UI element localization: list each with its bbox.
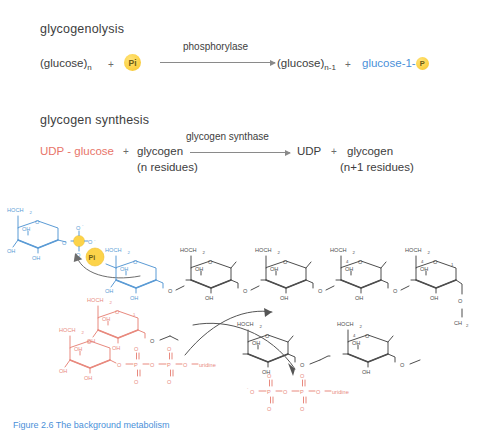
oh-prod-a-3: OH [362, 369, 370, 375]
hoch2-sub-ring2: 2 [278, 250, 281, 255]
carbon-4-prod-a: 4 [353, 333, 356, 338]
oh-udpg-2: OH [74, 346, 82, 352]
oh-label-blue-2: OH [22, 226, 30, 232]
glycogenolysis-plus-1: + [108, 59, 114, 70]
hoch2-sub-udpg: 2 [82, 330, 85, 335]
glucose-1-phosphate-structure: HOCH 2 O OH OH OH O O O O - - [7, 207, 96, 261]
oh-ring2-3: OH [280, 295, 288, 301]
glycosidic-o-3: O [318, 288, 323, 294]
glycosidic-o-4: O [393, 288, 398, 294]
hoch2-label-prod-a: HOCH [337, 321, 353, 327]
udp-released-structure: O - P O O O P O O O uridine [247, 373, 349, 412]
oh-chain-blue-1: OH [105, 288, 113, 294]
hoch2-label-prod-b: HOCH [237, 321, 253, 327]
branch-ch2-label: CH [454, 320, 462, 326]
hoch2-label-udpg: HOCH [59, 327, 75, 333]
glycogen-ring-4-branch: O HOCH 2 4 O OH OH 1 O CH 2 [393, 247, 469, 328]
oh-ring3-3: OH [355, 295, 363, 301]
p-label-udpg-2: P [167, 362, 171, 368]
glycogen-synthesis-title: glycogen synthesis [40, 113, 149, 127]
ring-oxygen-prod-b: O [265, 333, 270, 339]
udp-p2-top-o: O [300, 373, 305, 379]
phosphorylase-enzyme-label: phosphorylase [183, 41, 248, 52]
glycogenolysis-reaction-arrow [160, 62, 275, 63]
product-chain-ring-b: HOCH 2 O OH OH O [237, 321, 330, 375]
glycosidic-o-1: O [168, 288, 173, 294]
oh-prod-b-2: OH [252, 340, 260, 346]
ring-oxygen-ring4: O [433, 259, 438, 265]
udp-p2-bottom-o: O [300, 406, 305, 412]
glycogenolysis-right-product: (glucose)n-1 [277, 57, 336, 72]
hoch2-label-chain-blue: HOCH [105, 247, 121, 253]
o-bridge-udpg: O [150, 362, 155, 368]
glycogen-chain-blue-ring: HOCH 2 O OH OH OH [105, 247, 163, 301]
udp-p-label-1: P [267, 389, 271, 395]
glycogen-ring-2: O HOCH 2 O OH OH [243, 247, 313, 301]
oh-udpg-3: OH [84, 375, 92, 381]
oh-ring1-3: OH [205, 295, 213, 301]
udp-glucose-structure: HOCH 2 O OH OH OH O P O O O P O O O urid… [59, 327, 216, 385]
carbon-4-ring4: 4 [421, 259, 424, 264]
hoch2-sub-chain-blue: 2 [128, 250, 131, 255]
glucose-1-phosphate-label: glucose-1-P [362, 57, 429, 70]
udp-p1-top-o: O [267, 373, 272, 379]
arrowhead-to-udp [288, 363, 295, 376]
udp-p-label-2: P [300, 389, 304, 395]
hoch2-sub-prod-a: 2 [360, 324, 363, 329]
oh-chain-blue-3: OH [130, 295, 138, 301]
oh-ring4-3: OH [430, 295, 438, 301]
glucose-n-1-label: (glucose) [277, 57, 324, 69]
pi-label: Pi [124, 54, 141, 71]
hoch2-sub-ring1: 2 [203, 250, 206, 255]
glycogenolysis-left-substrate: (glucose)n [40, 57, 92, 72]
glycogenolysis-title: glycogenolysis [40, 22, 124, 36]
oh-ring4-2: OH [420, 266, 428, 272]
hoch2-label-ring4: HOCH [405, 247, 421, 253]
glucose-1-p-text: glucose-1- [362, 57, 416, 69]
hoch2-label-blue: HOCH [7, 207, 23, 213]
oh-ring1-2: OH [195, 266, 203, 272]
udp-o-uridine-link: O [316, 389, 321, 395]
o-link-udpg: O [117, 362, 122, 368]
ring-oxygen-new-red: O [115, 309, 120, 315]
glycogen-product-label: glycogen [347, 145, 393, 157]
p2-double-o-udpg: O [167, 346, 172, 352]
pi-release-arrow [71, 252, 140, 278]
udp-terminal-o-left: O [250, 389, 255, 395]
oh-new-red-2: OH [102, 316, 110, 322]
pi-badge-reaction1: Pi [124, 53, 141, 71]
synthesis-reaction-arrow [190, 152, 290, 153]
branch-oxygen: O [458, 298, 463, 304]
glucose-n-1-subscript: n-1 [324, 63, 336, 72]
hoch2-label-new-red: HOCH [87, 297, 103, 303]
glycosidic-o-prod-a: O [400, 362, 405, 368]
p2-bottom-o-udpg: O [167, 379, 172, 385]
hoch2-label-ring3: HOCH [330, 247, 346, 253]
carbon-4-ring3: 4 [346, 259, 349, 264]
ring-oxygen-udpg: O [87, 339, 92, 345]
branch-ch2-sub: 2 [466, 323, 469, 328]
phosphate-o-right: O [88, 239, 93, 245]
phosphate-charge-right: - [94, 237, 96, 242]
glycogen-substrate-label: glycogen [137, 145, 183, 157]
hoch2-label-ring2: HOCH [255, 247, 271, 253]
hoch2-sub-ring3: 2 [353, 250, 356, 255]
phosphate-o-top: O [76, 225, 81, 231]
ring-oxygen-chain-blue: O [133, 259, 138, 265]
phosphate-charge-top: - [82, 222, 84, 227]
glycogen-ring-1: O HOCH 2 O OH OH [168, 247, 238, 301]
glycogenolysis-plus-2: + [345, 59, 351, 70]
new-glucose-unit-red: HOCH 2 O OH OH OH 1 O [87, 297, 178, 351]
oh-label-blue-3: OH [32, 255, 40, 261]
pi-badge-diagram-label: Pi [89, 254, 96, 261]
p1-double-o-udpg: O [134, 346, 139, 352]
oh-ring3-2: OH [345, 266, 353, 272]
hoch2-sub-ring4: 2 [428, 250, 431, 255]
udp-charge-left: - [247, 385, 249, 390]
glycogen-structures-diagram: HOCH 2 O OH OH OH O O O O - - Pi HOCH [0, 190, 485, 431]
glycogen-n-residues-note: (n residues) [137, 161, 198, 173]
synthesis-plus-1: + [123, 146, 129, 157]
glycogen-ring-3: O HOCH 2 4 O OH OH [318, 247, 388, 301]
hoch2-sub-new-red: 2 [110, 300, 113, 305]
oh-udpg-1: OH [59, 368, 67, 374]
